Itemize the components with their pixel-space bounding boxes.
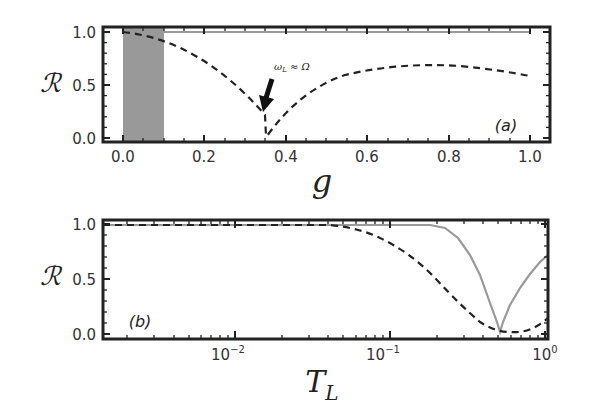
y-minor-ticks (103, 43, 550, 128)
tl-sub: L (324, 381, 338, 405)
y-ticks (103, 32, 550, 138)
panel-label-a: (a) (495, 116, 517, 135)
x-tick-label: 0.2 (192, 148, 216, 166)
annot-omega: ω (274, 61, 282, 72)
tick-base: 10 (366, 346, 385, 364)
x-minor-ticks (143, 27, 510, 142)
y-axis-title: ℛ (40, 68, 63, 98)
tick-base: 10 (532, 346, 551, 364)
series-solid-gray (103, 225, 548, 332)
panel-label-b: (b) (129, 312, 152, 331)
y-tick-label: 1.0 (72, 216, 96, 234)
arrow-icon (259, 79, 274, 112)
x-ticks (123, 27, 530, 142)
x-tick-label: 100 (532, 344, 557, 364)
x-tick-label: 0.6 (355, 148, 379, 166)
figure: 1.0 0.5 0.0 0.0 0.2 0.4 0.6 0.8 1.0 g ℛ … (0, 0, 589, 418)
tick-exp: 0 (551, 344, 557, 355)
x-minor-ticks (127, 220, 538, 339)
y-tick-label: 1.0 (72, 24, 96, 42)
y-tick-label: 0.0 (72, 130, 96, 148)
y-tick-label: 0.5 (72, 77, 96, 95)
panel-b: 1.0 0.5 0.0 10−2 10−1 100 TL ℛ (b) (40, 216, 558, 405)
shaded-region (123, 28, 164, 142)
x-tick-label: 0.4 (274, 148, 298, 166)
y-tick-label: 0.5 (72, 271, 96, 289)
panel-a: 1.0 0.5 0.0 0.0 0.2 0.4 0.6 0.8 1.0 g ℛ … (40, 24, 551, 200)
x-tick-label: 10−2 (211, 344, 245, 364)
annotation-omega: ωL ≈ Ω (274, 61, 310, 74)
x-tick-label: 0.0 (111, 148, 135, 166)
y-tick-label: 0.0 (72, 326, 96, 344)
tick-exp: −2 (230, 344, 245, 355)
x-tick-label: 0.8 (437, 148, 461, 166)
x-axis-title-tl: TL (305, 364, 338, 405)
y-axis-title: ℛ (40, 261, 63, 291)
tl-main: T (305, 364, 327, 399)
x-tick-label: 10−1 (366, 344, 400, 364)
x-axis-title-g: g (312, 162, 332, 200)
series-dashed-black (123, 32, 530, 136)
tick-exp: −1 (385, 344, 400, 355)
x-tick-label: 1.0 (518, 148, 542, 166)
annot-rest: ≈ Ω (287, 61, 310, 72)
x-major-ticks (235, 220, 545, 339)
tick-base: 10 (211, 346, 230, 364)
